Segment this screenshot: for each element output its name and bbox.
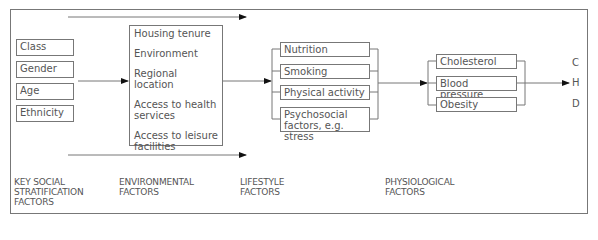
physio-factor-blood-pressure: Blood pressure — [436, 76, 517, 91]
physio-factor-obesity: Obesity — [436, 97, 517, 112]
env-factor-regional-location: Regional location — [134, 68, 218, 90]
env-factor-access-leisure: Access to leisure facilities — [134, 130, 218, 152]
social-factor-age: Age — [16, 83, 74, 100]
lifestyle-factor-smoking: Smoking — [280, 64, 370, 79]
column-label-physiological: PHYSIOLOGICAL FACTORS — [385, 177, 454, 197]
social-factor-gender: Gender — [16, 61, 74, 78]
social-factor-class: Class — [16, 39, 74, 56]
lifestyle-factor-psychosocial: Psychosocial factors, e.g. stress — [280, 107, 370, 132]
column-label-lifestyle: LIFESTYLE FACTORS — [240, 177, 284, 197]
column-label-social: KEY SOCIAL STRATIFICATION FACTORS — [14, 177, 83, 207]
outcome-c: C — [572, 57, 579, 68]
lifestyle-factor-physical-activity: Physical activity — [280, 85, 370, 100]
physio-factor-cholesterol: Cholesterol — [436, 54, 517, 69]
outcome-h: H — [572, 77, 580, 88]
environmental-factors-box: Housing tenure Environment Regional loca… — [129, 25, 223, 146]
env-factor-access-health: Access to health services — [134, 99, 218, 121]
outcome-d: D — [572, 98, 580, 109]
column-label-environmental: ENVIRONMENTAL FACTORS — [119, 177, 194, 197]
env-factor-housing-tenure: Housing tenure — [134, 28, 218, 39]
env-factor-environment: Environment — [134, 48, 218, 59]
social-factor-ethnicity: Ethnicity — [16, 105, 74, 122]
lifestyle-factor-nutrition: Nutrition — [280, 42, 370, 57]
